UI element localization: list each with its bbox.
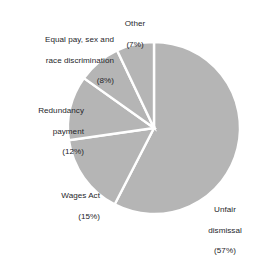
pie-label-equal-pay-name-line-2: race discrimination: [8, 56, 114, 66]
pie-label-wages-act-name: Wages Act: [14, 191, 100, 201]
pie-label-redundancy-payment: Redundancy payment (12%): [6, 96, 84, 167]
pie-label-equal-pay-percent: (8%): [8, 76, 114, 86]
pie-label-unfair-dismissal-name-line-2: dismissal: [196, 226, 254, 236]
pie-label-redundancy-name-line-2: payment: [6, 127, 84, 137]
pie-label-unfair-dismissal-name-line-1: Unfair: [196, 205, 254, 215]
pie-label-equal-pay-sex-race-discrimination: Equal pay, sex and race discrimination (…: [8, 25, 114, 96]
pie-label-wages-act: Wages Act (15%): [14, 181, 100, 232]
pie-label-unfair-dismissal: Unfair dismissal (57%): [196, 195, 254, 259]
pie-label-wages-act-percent: (15%): [14, 212, 100, 222]
pie-label-redundancy-name-line-1: Redundancy: [6, 106, 84, 116]
pie-label-unfair-dismissal-percent: (57%): [196, 246, 254, 256]
pie-label-equal-pay-name-line-1: Equal pay, sex and: [8, 35, 114, 45]
pie-label-redundancy-percent: (12%): [6, 147, 84, 157]
